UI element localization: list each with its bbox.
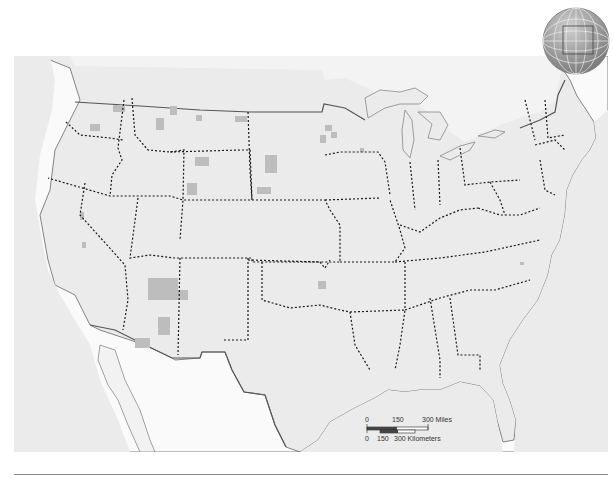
state-boundaries	[48, 98, 565, 378]
locator-globe-icon	[541, 6, 611, 76]
lake-erie	[440, 142, 475, 160]
scale-miles-0: 0	[365, 416, 369, 423]
lake-michigan	[402, 110, 414, 158]
scale-km-300: 300 Kilometers	[394, 435, 441, 442]
us-map	[14, 56, 608, 452]
scale-km-0: 0	[365, 435, 369, 442]
map-frame: 0 150 300 Miles 0 150 300 Kilometers	[14, 56, 608, 452]
canada-region	[70, 56, 565, 142]
bottom-rule	[14, 474, 608, 475]
shaded-lands	[80, 105, 524, 348]
scale-miles-300: 300 Miles	[422, 416, 452, 423]
scale-miles-150: 150	[392, 416, 404, 423]
scale-km-150: 150	[377, 435, 389, 442]
